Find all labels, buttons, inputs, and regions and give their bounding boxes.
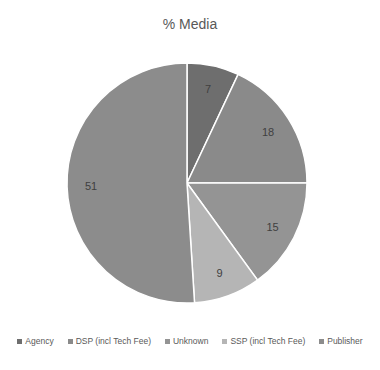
legend-swatch-icon	[165, 339, 170, 344]
legend-label: Publisher	[327, 336, 362, 346]
legend-swatch-icon	[319, 339, 324, 344]
legend-item-ssp[interactable]: SSP (incl Tech Fee)	[222, 336, 305, 346]
pie-slices	[67, 63, 307, 303]
legend-swatch-icon	[222, 339, 227, 344]
data-label-dsp: 18	[262, 126, 274, 138]
pie-chart: 71815951	[0, 0, 380, 330]
legend-item-unknown[interactable]: Unknown	[165, 336, 208, 346]
data-label-agency: 7	[205, 83, 211, 95]
legend-item-dsp[interactable]: DSP (incl Tech Fee)	[68, 336, 151, 346]
legend-swatch-icon	[68, 339, 73, 344]
data-label-unknown: 15	[266, 221, 278, 233]
legend: Agency DSP (incl Tech Fee) Unknown SSP (…	[0, 336, 380, 346]
legend-item-agency[interactable]: Agency	[17, 336, 53, 346]
data-label-publisher: 51	[85, 180, 97, 192]
legend-label: Unknown	[173, 336, 208, 346]
legend-label: DSP (incl Tech Fee)	[76, 336, 151, 346]
data-label-ssp: 9	[216, 267, 222, 279]
legend-label: SSP (incl Tech Fee)	[230, 336, 305, 346]
legend-swatch-icon	[17, 339, 22, 344]
legend-label: Agency	[25, 336, 53, 346]
legend-item-publisher[interactable]: Publisher	[319, 336, 362, 346]
